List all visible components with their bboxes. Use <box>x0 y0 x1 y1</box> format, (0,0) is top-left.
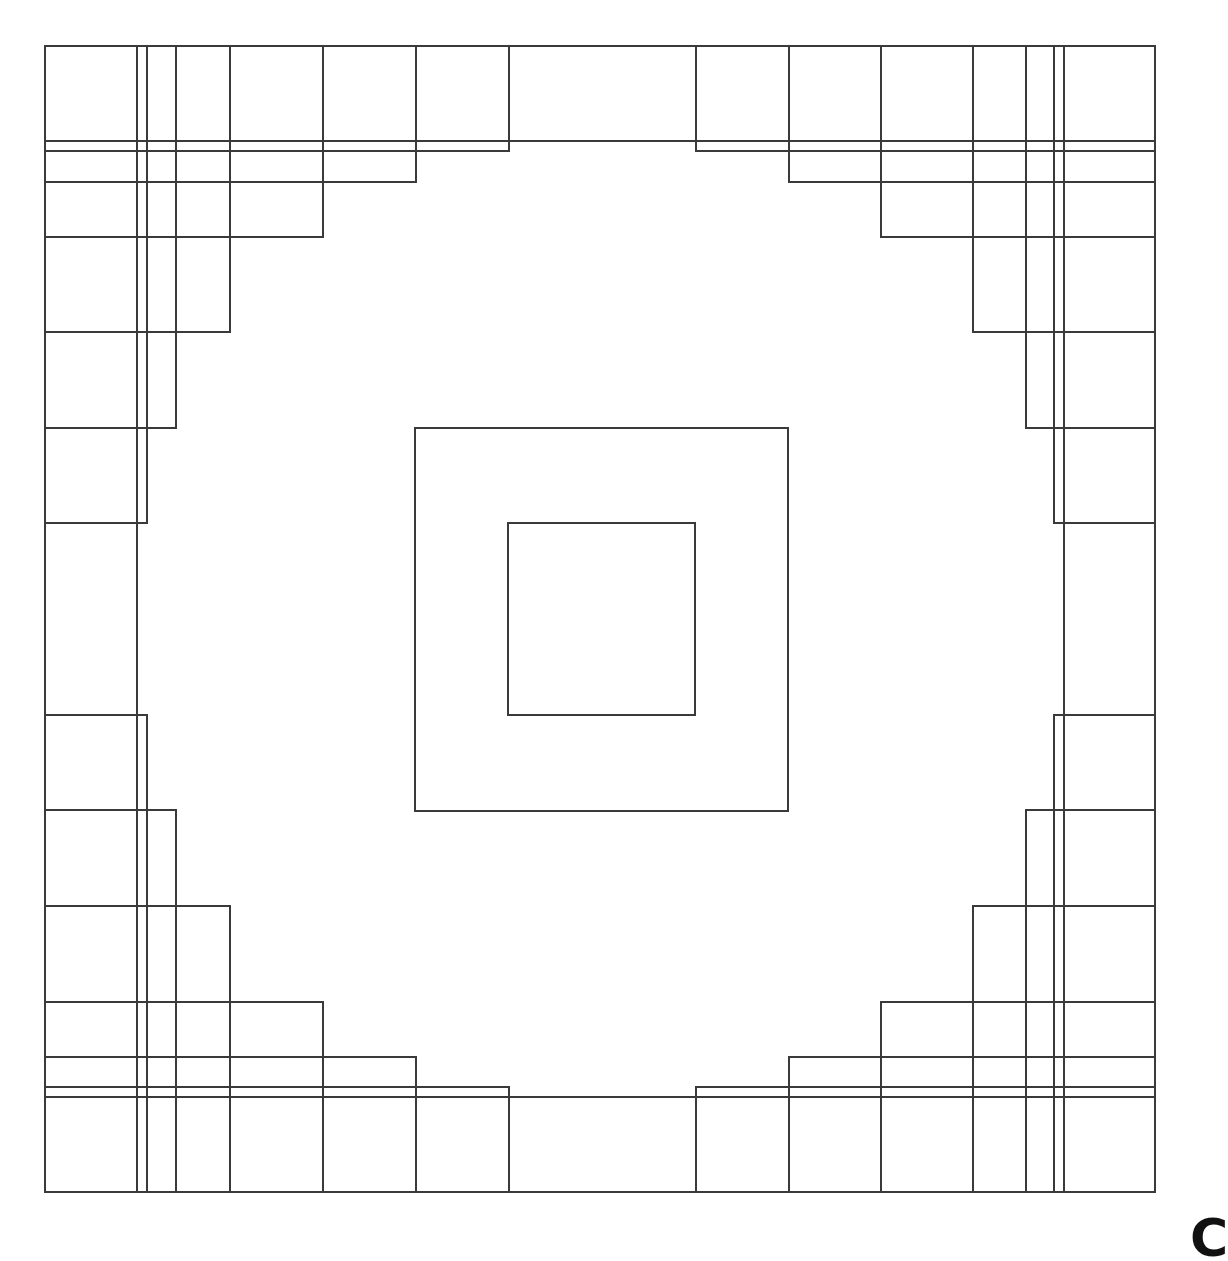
staircase-bottom-right <box>696 715 1155 1192</box>
staircase-rect-top-right-6 <box>1054 46 1155 523</box>
staircase-rect-bottom-left-1 <box>45 1087 509 1192</box>
staircase-rect-bottom-left-6 <box>45 715 147 1192</box>
staircase-rect-top-right-1 <box>696 46 1155 151</box>
outer-frame-group <box>45 46 1155 1192</box>
staircase-rect-bottom-right-5 <box>1026 810 1155 1192</box>
corner-label: C <box>1190 1212 1228 1261</box>
center-inner-square <box>508 523 695 715</box>
staircase-rect-top-right-2 <box>789 46 1155 182</box>
staircase-top-right <box>696 46 1155 523</box>
staircase-rect-bottom-right-6 <box>1054 715 1155 1192</box>
center-squares-group <box>415 428 788 811</box>
full-lines-group <box>45 46 1155 1192</box>
staircase-rect-bottom-left-5 <box>45 810 176 1192</box>
outer-frame <box>45 46 1155 1192</box>
center-outer-square <box>415 428 788 811</box>
staircase-rect-top-left-6 <box>45 46 147 523</box>
staircase-bottom-left <box>45 715 509 1192</box>
staircase-rect-bottom-right-2 <box>789 1057 1155 1192</box>
staircase-top-left <box>45 46 509 523</box>
staircase-rect-bottom-right-1 <box>696 1087 1155 1192</box>
staircase-rect-top-left-1 <box>45 46 509 151</box>
